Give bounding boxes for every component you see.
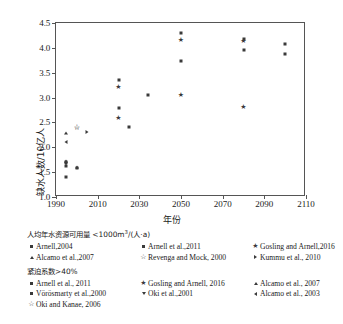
legend-item[interactable]: Arnell et al.,2011 <box>139 242 251 251</box>
legend-group1-rows: Arnell,2004Arnell et al.,2011★Gosling an… <box>27 242 339 262</box>
legend-item[interactable]: ★Gosling and Arnell,2016 <box>251 242 335 251</box>
y-tick-label: 3.5 <box>39 68 50 78</box>
legend-marker <box>139 290 148 298</box>
square-marker-icon <box>75 167 78 170</box>
y-tick-label: 4.0 <box>39 43 50 53</box>
legend-label: Gosling and Arnell, 2016 <box>148 279 225 288</box>
square-marker-icon <box>65 175 68 178</box>
legend-marker: ★ <box>251 243 260 251</box>
legend-item[interactable]: Arnell,2004 <box>27 242 139 251</box>
legend-label: Oki et al.,2001 <box>148 289 193 298</box>
x-tick-label: 2110 <box>297 199 315 209</box>
star-marker-icon: ★ <box>178 37 184 44</box>
legend-item[interactable]: ★Gosling and Arnell, 2016 <box>139 279 251 288</box>
legend-label: Vörösmarty et al.,2000 <box>36 289 106 298</box>
x-tick-label: 2010 <box>89 199 107 209</box>
triangle-right-marker-icon <box>254 255 257 259</box>
legend-marker <box>27 290 36 298</box>
square-marker-icon <box>242 48 245 51</box>
star-marker-icon: ★ <box>115 114 121 121</box>
legend-label: Alcamo et al.,2007 <box>36 253 94 262</box>
y-tick-label: 4.5 <box>39 18 50 28</box>
data-point: ★ <box>178 37 184 44</box>
data-point <box>117 78 120 81</box>
x-tick-label: 2070 <box>214 199 232 209</box>
legend-marker <box>27 279 36 287</box>
legend-group2-header: 紧迫系数>40% <box>27 265 339 276</box>
data-point <box>64 131 68 134</box>
square-marker-icon <box>117 78 120 81</box>
legend-marker: ☆ <box>27 300 36 308</box>
y-tick-mark <box>52 48 56 49</box>
legend-label: Alcamo et al., 2007 <box>260 279 320 288</box>
legend-label: Arnell,2004 <box>36 242 73 251</box>
data-point <box>284 53 287 56</box>
scatter-chart: 缺水人数/10亿人 年份 1.01.52.02.53.03.54.04.5 19… <box>0 0 343 324</box>
legend-row: Alcamo et al.,2007☆Revenga and Mock, 200… <box>27 253 339 262</box>
star-marker-icon: ★ <box>252 243 258 250</box>
data-point: ★ <box>115 114 121 121</box>
square-marker-icon <box>127 125 130 128</box>
triangle-down-marker-icon <box>142 292 146 295</box>
y-axis-title: 缺水人数/10亿人 <box>34 128 47 196</box>
legend-marker <box>27 243 36 251</box>
legend-label: Alcamo et al., 2003 <box>260 289 320 298</box>
star-marker-icon: ★ <box>115 84 121 91</box>
legend-row: ☆Oki and Kanae, 2006 <box>27 300 339 309</box>
legend-item[interactable]: Alcamo et al., 2007 <box>251 279 320 288</box>
star-open-marker-icon: ☆ <box>28 301 34 308</box>
data-point <box>242 48 245 51</box>
triangle-left-marker-icon <box>65 140 68 144</box>
square-marker-icon <box>284 53 287 56</box>
legend-marker: ☆ <box>139 253 148 261</box>
y-tick-mark <box>52 172 56 173</box>
square-marker-icon <box>180 59 183 62</box>
x-tick-label: 2050 <box>172 199 190 209</box>
y-tick-label: 1.5 <box>39 167 50 177</box>
legend-group1-header-tail: /(人·a) <box>128 230 150 239</box>
x-tick-label: 1990 <box>47 199 65 209</box>
plot-area: 1.01.52.02.53.03.54.04.5 199020102030205… <box>55 22 305 196</box>
y-tick-label: 2.0 <box>39 142 50 152</box>
legend-item[interactable]: ☆Oki and Kanae, 2006 <box>27 300 139 309</box>
legend-item[interactable]: Alcamo et al., 2003 <box>251 289 320 298</box>
data-point: ★ <box>115 84 121 91</box>
y-tick-label: 3.0 <box>39 93 50 103</box>
triangle-up-marker-icon <box>64 131 68 134</box>
y-tick-mark <box>52 147 56 148</box>
square-marker-icon <box>284 43 287 46</box>
legend-label: Revenga and Mock, 2000 <box>148 253 226 262</box>
legend-label: Arnell et al., 2011 <box>36 279 91 288</box>
y-tick-mark <box>52 73 56 74</box>
legend-marker <box>27 253 36 261</box>
y-tick-mark <box>52 98 56 99</box>
triangle-left-marker-icon <box>254 292 257 296</box>
legend-item[interactable]: ☆Revenga and Mock, 2000 <box>139 253 251 262</box>
star-marker-icon: ★ <box>240 104 246 111</box>
x-tick-label: 2090 <box>255 199 273 209</box>
legend-group1-header: 人均年水资源可用量 <1000m3/(人·a) <box>27 228 339 239</box>
legend-marker <box>139 243 148 251</box>
star-open-marker-icon: ☆ <box>140 254 146 261</box>
legend-label: Kummu et al., 2010 <box>260 253 321 262</box>
triangle-up-marker-icon <box>30 256 34 259</box>
data-point <box>127 125 130 128</box>
y-tick-mark <box>52 122 56 123</box>
legend-item[interactable]: Kummu et al., 2010 <box>251 253 321 262</box>
legend-group2-rows: Arnell et al., 2011★Gosling and Arnell, … <box>27 279 339 309</box>
data-point <box>64 162 68 165</box>
legend-marker: ★ <box>139 279 148 287</box>
legend-row: Vörösmarty et al.,2000Oki et al.,2001Alc… <box>27 289 339 298</box>
legend-label: Arnell et al.,2011 <box>148 242 201 251</box>
triangle-right-marker-icon <box>86 130 89 134</box>
data-point <box>146 93 149 96</box>
legend-item[interactable]: Vörösmarty et al.,2000 <box>27 289 139 298</box>
data-point <box>284 43 287 46</box>
legend-label: Oki and Kanae, 2006 <box>36 300 101 309</box>
legend-item[interactable]: Alcamo et al.,2007 <box>27 253 139 262</box>
star-open-marker-icon: ☆ <box>74 125 80 132</box>
triangle-up-marker-icon <box>254 282 258 285</box>
legend-item[interactable]: Arnell et al., 2011 <box>27 279 139 288</box>
data-point <box>242 37 245 40</box>
legend-item[interactable]: Oki et al.,2001 <box>139 289 251 298</box>
